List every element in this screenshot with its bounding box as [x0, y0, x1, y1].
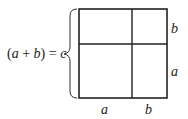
bottom-label-b: b: [145, 102, 152, 117]
square-diagram: (a + b) = c b a a b: [0, 0, 188, 119]
right-label-b: b: [171, 21, 178, 36]
right-label-a: a: [171, 64, 178, 79]
equation-label: (a + b) = c: [7, 46, 67, 62]
bottom-label-a: a: [101, 102, 108, 117]
outer-square: [79, 9, 167, 98]
